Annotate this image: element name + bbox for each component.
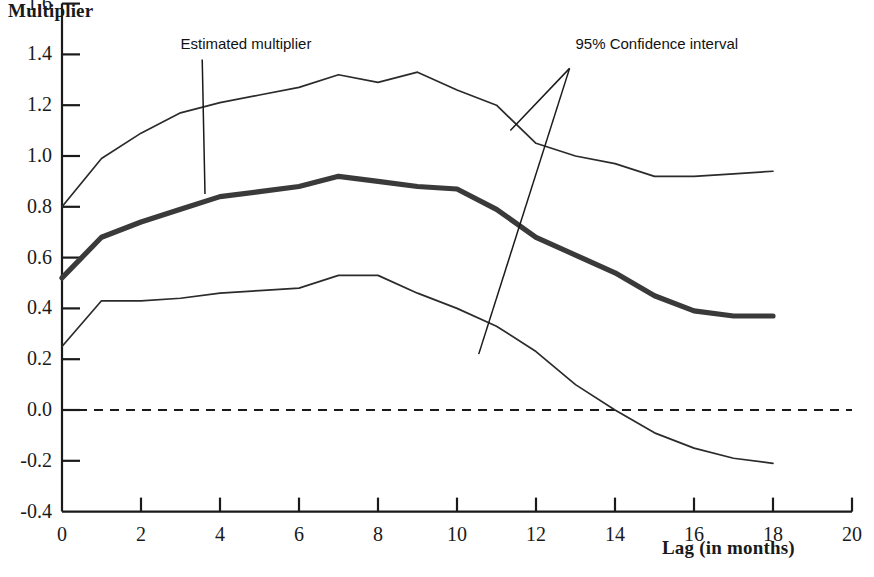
annotation-leader-confidence-interval-1 <box>479 68 570 354</box>
y-tick-label: 0.0 <box>2 399 52 419</box>
y-tick-label: 1.0 <box>2 145 52 165</box>
y-tick-label: -0.4 <box>2 501 52 521</box>
y-tick-label: -0.2 <box>2 450 52 470</box>
x-tick-label: 4 <box>200 524 240 544</box>
x-tick-label: 10 <box>437 524 477 544</box>
y-tick-label: 1.2 <box>2 94 52 114</box>
annotation-leader-confidence-interval-0 <box>510 68 569 130</box>
y-tick-label: 0.6 <box>2 247 52 267</box>
y-tick-label: 0.4 <box>2 297 52 317</box>
x-axis-ticks <box>141 498 852 512</box>
confidence-interval-line-lower <box>62 275 773 463</box>
annotation-confidence-interval: 95% Confidence interval <box>576 35 739 52</box>
x-tick-label: 8 <box>358 524 398 544</box>
annotation-estimated-multiplier: Estimated multiplier <box>181 35 312 52</box>
axis-lines <box>62 4 852 512</box>
x-tick-label: 12 <box>516 524 556 544</box>
x-tick-label: 6 <box>279 524 319 544</box>
annotation-leader-estimated-multiplier-0 <box>202 59 205 194</box>
x-tick-label: 18 <box>753 524 793 544</box>
chart-plot-area <box>0 0 874 577</box>
y-tick-label: 0.2 <box>2 348 52 368</box>
y-tick-label: 1.4 <box>2 43 52 63</box>
estimate-line <box>62 176 773 316</box>
y-axis-ticks <box>62 4 80 461</box>
y-tick-label: 0.8 <box>2 196 52 216</box>
x-tick-label: 0 <box>42 524 82 544</box>
x-tick-label: 20 <box>832 524 872 544</box>
x-tick-label: 16 <box>674 524 714 544</box>
y-tick-label: 1.6 <box>2 0 52 13</box>
x-tick-label: 14 <box>595 524 635 544</box>
chart-figure: Multiplier Lag (in months) -0.4-0.20.00.… <box>0 0 874 577</box>
x-tick-label: 2 <box>121 524 161 544</box>
